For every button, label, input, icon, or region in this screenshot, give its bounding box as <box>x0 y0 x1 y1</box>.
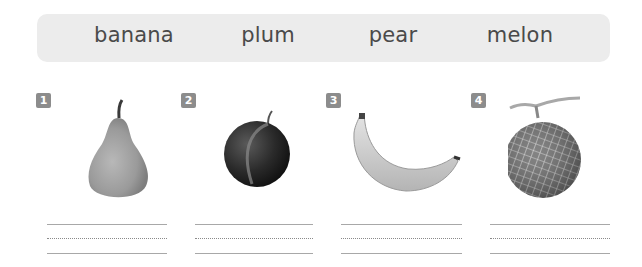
number-badge-2: 2 <box>181 93 196 108</box>
answer-line-top <box>47 224 167 225</box>
word-bank: banana plum pear melon <box>37 14 610 62</box>
answer-line-bottom <box>490 253 610 254</box>
answer-line-middle-dotted <box>490 238 610 239</box>
answer-line-top <box>195 224 313 225</box>
answer-line-middle-dotted <box>47 238 167 239</box>
number-badge-1: 1 <box>36 93 51 108</box>
answer-line-middle-dotted <box>195 238 313 239</box>
word-melon: melon <box>487 23 553 47</box>
word-pear: pear <box>369 23 418 47</box>
answer-line-middle-dotted <box>341 238 462 239</box>
plum-picture <box>222 110 294 190</box>
word-banana: banana <box>94 23 174 47</box>
answer-line-bottom <box>341 253 462 254</box>
banana-picture <box>350 113 462 195</box>
answer-line-bottom <box>47 253 167 254</box>
answer-line-top <box>490 224 610 225</box>
number-badge-3: 3 <box>326 93 341 108</box>
melon-picture <box>508 96 588 204</box>
word-plum: plum <box>241 23 295 47</box>
number-badge-4: 4 <box>471 93 486 108</box>
answer-line-bottom <box>195 253 313 254</box>
answer-line-top <box>341 224 462 225</box>
pear-picture <box>78 98 156 203</box>
